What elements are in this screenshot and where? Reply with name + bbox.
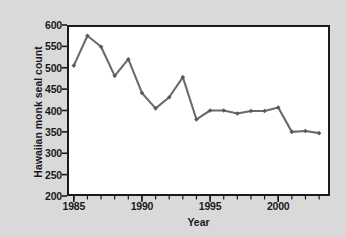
data-point-marker <box>317 131 322 136</box>
y-tick-label: 600 <box>34 20 62 30</box>
x-axis-minor-ticks <box>74 196 319 200</box>
data-markers <box>72 33 322 135</box>
y-axis-major-ticks <box>62 25 67 196</box>
figure: 600550500450400350300250200 198519901995… <box>0 0 346 237</box>
x-tick-label: 2000 <box>258 201 298 212</box>
data-point-marker <box>303 129 308 134</box>
y-tick-label: 200 <box>34 191 62 201</box>
data-point-marker <box>262 109 267 114</box>
x-tick-label: 1990 <box>122 201 162 212</box>
y-axis-label: Hawaiian monk seal count <box>32 37 44 187</box>
x-axis-tick-labels: 1985199019952000 <box>8 201 346 215</box>
data-point-marker <box>221 108 226 113</box>
data-point-marker <box>249 109 254 114</box>
x-axis-label: Year <box>67 216 330 228</box>
x-tick-label: 1995 <box>190 201 230 212</box>
x-tick-label: 1985 <box>54 201 94 212</box>
data-point-marker <box>235 111 240 116</box>
figure-inner: 600550500450400350300250200 198519901995… <box>8 6 338 228</box>
